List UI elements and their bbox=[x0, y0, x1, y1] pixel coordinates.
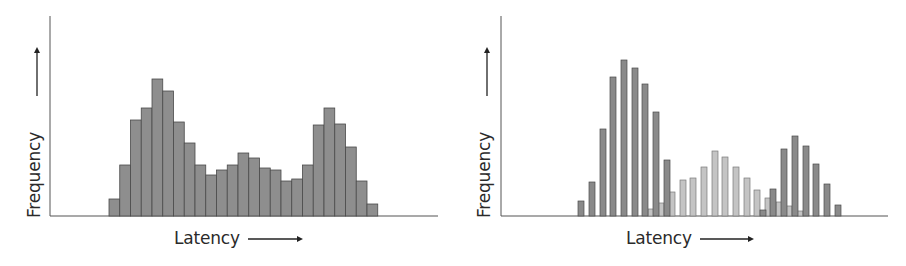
histogram-bar-light bbox=[754, 190, 760, 216]
histogram-bar-dark bbox=[610, 77, 616, 216]
histogram-bar-light bbox=[733, 167, 739, 216]
histogram-bar-dark bbox=[803, 146, 809, 216]
right-histogram-plot bbox=[0, 0, 906, 266]
histogram-bar-dark bbox=[824, 184, 830, 216]
histogram-bar-dark bbox=[642, 84, 648, 216]
right-y-axis-label: Frequency bbox=[474, 132, 494, 218]
histogram-bar-dark bbox=[600, 129, 606, 216]
right-histogram: Frequency Latency bbox=[0, 0, 906, 266]
right-x-axis-label: Latency bbox=[626, 228, 692, 248]
histogram-bar-dark bbox=[664, 160, 670, 216]
histogram-bar-light bbox=[712, 151, 718, 216]
x-arrow-head-icon bbox=[748, 236, 754, 242]
histogram-bar-dark bbox=[813, 164, 819, 216]
histogram-bar-dark bbox=[792, 136, 798, 216]
histogram-bar-dark bbox=[578, 201, 584, 216]
histogram-bar-dark bbox=[621, 60, 627, 216]
histogram-bar-dark bbox=[653, 112, 659, 216]
histogram-bar-dark bbox=[632, 68, 638, 216]
histogram-bar-light bbox=[680, 180, 686, 216]
histogram-bar-light bbox=[722, 157, 728, 216]
histogram-bar-dark bbox=[781, 149, 787, 216]
y-arrow-head-icon bbox=[484, 47, 490, 53]
histogram-bar-dark bbox=[770, 189, 776, 216]
histogram-bar-dark bbox=[835, 205, 841, 216]
histogram-bar-dark bbox=[760, 210, 766, 216]
histogram-bar-light bbox=[690, 178, 696, 216]
histogram-bar-light bbox=[744, 178, 750, 216]
histogram-bar-light bbox=[701, 167, 707, 216]
histogram-bar-dark bbox=[589, 182, 595, 216]
